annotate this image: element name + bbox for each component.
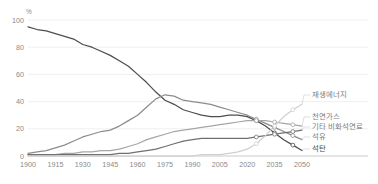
x-axis-tick-label: 2005 xyxy=(212,160,228,169)
x-axis-tick-label: 2035 xyxy=(267,160,283,169)
y-axis-tick-label: 40 xyxy=(16,97,24,106)
legend-leader-line xyxy=(302,149,310,151)
data-point-marker xyxy=(273,132,277,136)
data-point-marker xyxy=(273,124,277,128)
data-point-marker xyxy=(254,135,258,139)
y-axis-unit-label: % xyxy=(26,8,32,15)
series-line xyxy=(28,121,302,155)
x-axis-group: 1900191519301945196019751990200520202035… xyxy=(20,160,310,169)
legend-leader-line xyxy=(302,95,310,104)
x-axis-tick-label: 1900 xyxy=(20,160,36,169)
y-axis-tick-label: 20 xyxy=(16,124,24,133)
x-axis-tick-label: 2020 xyxy=(239,160,255,169)
legend-label: 기타 비화석연료 xyxy=(312,122,363,131)
marker-group xyxy=(254,108,294,147)
data-point-marker xyxy=(273,120,277,124)
x-axis-tick-label: 1975 xyxy=(157,160,173,169)
data-point-marker xyxy=(291,143,295,147)
legend-label: 재생에너지 xyxy=(312,90,347,99)
legend-label: 석탄 xyxy=(312,144,326,153)
energy-mix-line-chart: 1900191519301945196019751990200520202035… xyxy=(0,0,378,184)
data-point-marker xyxy=(291,134,295,138)
legend-group: 재생에너지천연가스기타 비화석연료석유석탄 xyxy=(302,90,363,153)
x-axis-tick-label: 2050 xyxy=(294,160,310,169)
data-point-marker xyxy=(291,130,295,134)
series-line xyxy=(28,104,302,156)
legend-label: 천연가스 xyxy=(312,112,340,121)
data-point-marker xyxy=(254,142,258,146)
x-axis-tick-label: 1930 xyxy=(75,160,91,169)
data-point-marker xyxy=(254,119,258,123)
y-axis-tick-label: 100 xyxy=(12,16,24,25)
x-axis-tick-label: 1960 xyxy=(130,160,146,169)
legend-label: 석유 xyxy=(312,132,326,141)
legend-leader-line xyxy=(302,137,310,140)
x-axis-tick-label: 1945 xyxy=(102,160,118,169)
series-group xyxy=(28,27,302,156)
chart-canvas: 1900191519301945196019751990200520202035… xyxy=(0,0,378,184)
series-line xyxy=(28,27,302,151)
x-axis-tick-label: 1915 xyxy=(47,160,63,169)
y-axis-group: 020406080100 xyxy=(12,16,24,161)
x-axis-tick-label: 1990 xyxy=(184,160,200,169)
legend-leader-line xyxy=(302,117,310,126)
y-axis-tick-label: 60 xyxy=(16,70,24,79)
y-axis-tick-label: 80 xyxy=(16,43,24,52)
data-point-marker xyxy=(291,123,295,127)
y-axis-tick-label: 0 xyxy=(20,152,24,161)
data-point-marker xyxy=(291,108,295,112)
